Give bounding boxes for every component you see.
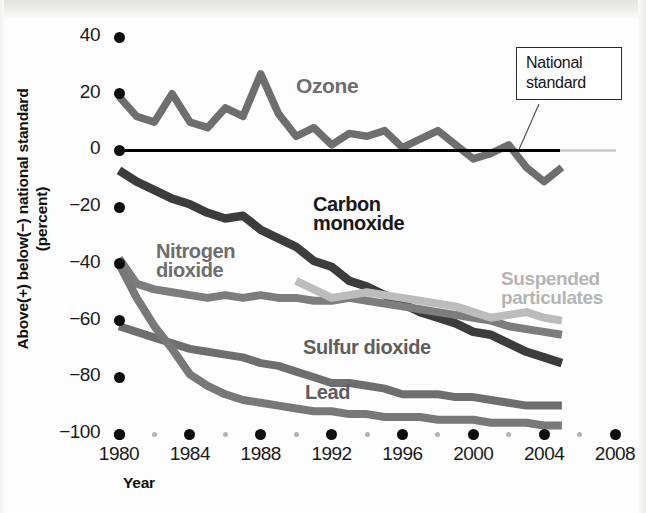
x-tick-label-2000: 2000 [438,443,508,465]
y-tick-label-20: 20 [48,81,100,103]
x-minor-tick-dot [577,432,582,437]
series-label-suspended-particulates-line1: Suspended [501,268,600,289]
series-label-ozone: Ozone [296,76,358,95]
x-tick-label-1980: 1980 [84,443,154,465]
series-label-nitrogen-dioxide-line2: dioxide [156,259,223,281]
series-label-nitrogen-dioxide: Nitrogen dioxide [156,242,235,280]
x-minor-tick-dot [152,432,157,437]
y-tick-label-neg20: −20 [48,194,100,216]
x-minor-tick-dot [365,432,370,437]
national-standard-callout: National standard [516,47,622,100]
y-tick-label-neg100: −100 [48,421,100,443]
series-label-suspended-particulates-line2: particulates [501,287,603,308]
series-label-lead: Lead [305,383,350,402]
series-label-sulfur-dioxide: Sulfur dioxide [303,338,431,357]
x-tick-label-1988: 1988 [226,443,296,465]
x-tick-label-1996: 1996 [367,443,437,465]
x-tick-dot [184,429,195,440]
y-tick-label-0: 0 [48,137,100,159]
x-minor-tick-dot [506,432,511,437]
series-label-suspended-particulates: Suspended particulates [501,269,603,307]
y-tick-dot [114,202,125,213]
x-tick-dot [468,429,479,440]
y-tick-label-40: 40 [48,24,100,46]
x-tick-dot [326,429,337,440]
series-label-carbon-monoxide: Carbon monoxide [313,195,404,233]
y-tick-dot [114,145,125,156]
series-label-carbon-monoxide-line2: monoxide [313,212,404,234]
national-standard-callout-line1: National [526,54,582,71]
y-tick-dot [114,32,125,43]
x-tick-dot [610,429,621,440]
y-tick-dot [114,315,125,326]
y-tick-label-neg40: −40 [48,251,100,273]
x-axis-title: Year [123,474,155,492]
y-tick-label-neg60: −60 [48,308,100,330]
x-tick-dot [114,429,125,440]
x-tick-dot [539,429,550,440]
x-tick-label-2008: 2008 [580,443,646,465]
y-tick-dot [114,372,125,383]
x-tick-label-1984: 1984 [155,443,225,465]
y-tick-label-neg80: −80 [48,364,100,386]
x-tick-dot [255,429,266,440]
x-minor-tick-dot [294,432,299,437]
x-tick-dot [397,429,408,440]
chart-figure: Above(+) below(−) national standard (per… [0,0,646,513]
x-tick-label-2004: 2004 [509,443,579,465]
y-tick-dot [114,88,125,99]
national-standard-callout-line2: standard [526,74,586,91]
x-minor-tick-dot [223,432,228,437]
callout-leader-line [519,104,539,149]
y-tick-dot [114,258,125,269]
x-tick-label-1992: 1992 [297,443,367,465]
x-minor-tick-dot [435,432,440,437]
